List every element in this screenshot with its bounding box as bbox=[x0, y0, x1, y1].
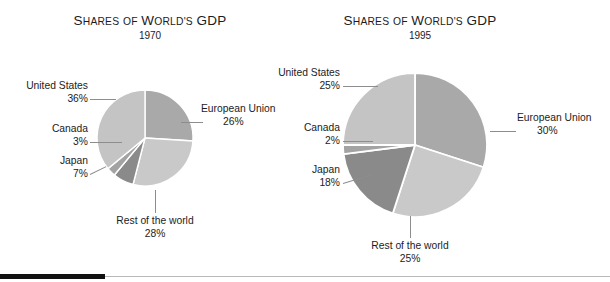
label-1995-united-states-name: United States bbox=[278, 67, 340, 78]
chart-title-1995: SHARES OF WORLD'S GDP 1995 bbox=[330, 14, 510, 41]
label-1995-japan-value: 18% bbox=[258, 177, 340, 190]
leader-1970-canada bbox=[90, 142, 122, 143]
chart-title-1970: SHARES OF WORLD'S GDP 1970 bbox=[60, 14, 240, 41]
leader-1995-rest-of-the-world bbox=[410, 216, 411, 238]
pie-chart-1970 bbox=[97, 90, 193, 186]
label-1995-european-union-name: European Union bbox=[517, 112, 591, 123]
label-1970-united-states-name: United States bbox=[26, 80, 88, 91]
leader-1995-european-union bbox=[490, 131, 516, 132]
label-1995-rest-of-the-world-name: Rest of the world bbox=[371, 240, 448, 251]
label-1970-canada-name: Canada bbox=[52, 123, 88, 134]
label-1995-rest-of-the-world: Rest of the world 25% bbox=[345, 240, 475, 265]
chart-year-1995: 1995 bbox=[330, 31, 510, 41]
label-1995-canada: Canada 2% bbox=[258, 122, 340, 147]
title-1995-w1-rest: HARES bbox=[353, 16, 389, 27]
leader-1970-european-union bbox=[181, 122, 203, 123]
title-1995-w4: GDP bbox=[467, 13, 497, 28]
label-1970-canada: Canada 3% bbox=[6, 123, 88, 148]
label-1995-european-union-value: 30% bbox=[517, 125, 609, 138]
label-1995-japan: Japan 18% bbox=[258, 164, 340, 189]
label-1970-rest-of-the-world: Rest of the world 28% bbox=[92, 215, 218, 240]
title-1995-w1-cap: S bbox=[344, 13, 353, 28]
label-1995-rest-of-the-world-value: 25% bbox=[345, 253, 475, 266]
title-1970-w2: OF bbox=[123, 16, 138, 27]
title-1970-w3-rest: ORLD'S bbox=[154, 16, 193, 27]
label-1995-canada-name: Canada bbox=[304, 122, 340, 133]
label-1970-united-states: United States 36% bbox=[6, 80, 88, 105]
title-1970-w1-cap: S bbox=[74, 13, 83, 28]
title-1970-w1-rest: HARES bbox=[83, 16, 119, 27]
label-1995-japan-name: Japan bbox=[312, 164, 340, 175]
label-1995-united-states: United States 25% bbox=[258, 67, 340, 92]
title-1995-w3-cap: W bbox=[411, 13, 424, 28]
leader-1970-rest-of-the-world bbox=[155, 190, 156, 213]
title-1995-w3-rest: ORLD'S bbox=[424, 16, 463, 27]
bottom-rule-thick bbox=[0, 274, 105, 279]
label-1970-united-states-value: 36% bbox=[6, 93, 88, 106]
chart-year-1970: 1970 bbox=[60, 31, 240, 41]
pie-1970-slice-european-union bbox=[145, 90, 193, 141]
title-1970-w3-cap: W bbox=[141, 13, 154, 28]
label-1995-canada-value: 2% bbox=[258, 135, 340, 148]
label-1970-japan-value: 7% bbox=[6, 168, 88, 181]
label-1995-united-states-value: 25% bbox=[258, 80, 340, 93]
label-1995-european-union: European Union 30% bbox=[517, 112, 609, 137]
leader-1995-canada bbox=[343, 141, 373, 142]
label-1970-japan-name: Japan bbox=[60, 155, 88, 166]
label-1970-rest-of-the-world-value: 28% bbox=[92, 228, 218, 241]
label-1970-japan: Japan 7% bbox=[6, 155, 88, 180]
leader-1970-united-states bbox=[90, 99, 116, 100]
label-1970-rest-of-the-world-name: Rest of the world bbox=[116, 215, 193, 226]
label-1970-european-union-name: European Union bbox=[201, 103, 275, 114]
chart-title-1995-text: SHARES OF WORLD'S GDP bbox=[330, 14, 510, 28]
leader-1995-united-states bbox=[343, 86, 378, 87]
pie-chart-1995 bbox=[343, 73, 487, 217]
label-1970-canada-value: 3% bbox=[6, 136, 88, 149]
title-1995-w2: OF bbox=[393, 16, 408, 27]
pie-1995-slice-united-states bbox=[343, 73, 415, 145]
chart-title-1970-text: SHARES OF WORLD'S GDP bbox=[60, 14, 240, 28]
gdp-shares-figure: SHARES OF WORLD'S GDP 1970 United States… bbox=[0, 0, 610, 282]
title-1970-w4: GDP bbox=[197, 13, 227, 28]
